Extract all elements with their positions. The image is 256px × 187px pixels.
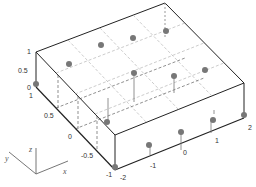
svg-text:0.5: 0.5 — [44, 112, 54, 119]
svg-text:1: 1 — [29, 92, 33, 99]
data-points — [33, 28, 247, 170]
svg-text:1: 1 — [215, 137, 219, 144]
axis-triad — [9, 148, 68, 174]
svg-text:0: 0 — [68, 133, 72, 140]
triad-y-label: y — [4, 154, 9, 163]
triad-z-label: z — [28, 145, 33, 154]
data-stems — [108, 73, 214, 155]
svg-text:1: 1 — [27, 48, 31, 55]
svg-text:-1: -1 — [106, 171, 112, 178]
grid-lines — [56, 15, 224, 151]
svg-text:2: 2 — [248, 124, 252, 131]
triad-x-label: x — [62, 167, 67, 176]
svg-text:-2: -2 — [120, 174, 126, 181]
svg-text:0: 0 — [27, 84, 31, 91]
svg-text:-0.5: -0.5 — [81, 152, 93, 159]
svg-text:0.5: 0.5 — [18, 67, 28, 74]
svg-text:0: 0 — [183, 149, 187, 156]
tick-labels: 1 0.5 0 1 0.5 0 -0.5 -1 -2 -1 0 1 2 — [18, 48, 252, 181]
3d-scatter-plot: 1 0.5 0 1 0.5 0 -0.5 -1 -2 -1 0 1 2 y z … — [0, 0, 256, 187]
bounding-box — [36, 3, 244, 170]
svg-text:-1: -1 — [150, 162, 156, 169]
